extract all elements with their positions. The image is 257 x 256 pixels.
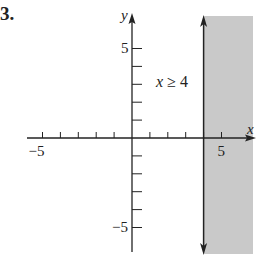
y-tick-label-neg5: −5 [112, 220, 128, 235]
y-axis-label: y [121, 8, 128, 23]
x-tick-label-5: 5 [218, 144, 226, 159]
inequality-annotation: x ≥ 4 [156, 74, 188, 90]
y-tick-label-5: 5 [121, 41, 129, 56]
problem-number: 3. [0, 4, 14, 23]
x-tick-label-neg5: −5 [29, 144, 45, 159]
x-axis-label: x [247, 122, 254, 137]
inequality-graph [0, 0, 257, 256]
inequality-relation: ≥ 4 [163, 73, 188, 90]
